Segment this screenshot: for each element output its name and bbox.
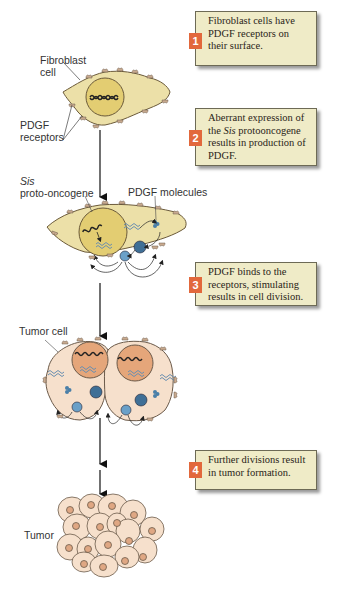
tumor-mass-illustration [57,494,164,577]
dividing-tumor-cells-illustration [43,337,177,425]
step-2-text: Aberrant expression of the Sis protoonco… [208,112,306,161]
step-1-number: 1 [189,33,202,49]
tumor-label: Tumor [24,529,54,541]
step-1-box: 1 Fibroblast cells have PDGF receptors o… [195,11,317,66]
tumor-cell-label: Tumor cell [19,325,68,337]
step-1-text: Fibroblast cells have PDGF receptors on … [208,15,295,51]
step-2-number: 2 [189,130,202,146]
step-2-box: 2 Aberrant expression of the Sis protoon… [195,108,317,166]
step-4-box: 4 Further divisions result in tumor form… [195,450,317,490]
step-3-box: 3 PDGF binds to the receptors, stimulati… [195,262,317,306]
pdgf-receptors-label: PDGFreceptors [20,119,64,143]
step-4-number: 4 [189,462,202,478]
fibroblast-cell-label: Fibroblastcell [40,54,86,78]
fibroblast-expressing-pdgf-illustration [47,196,186,277]
step-3-number: 3 [189,277,202,293]
step-3-text: PDGF binds to the receptors, stimulating… [208,266,303,302]
pdgf-molecules-label: PDGF molecules [128,186,207,198]
step-4-text: Further divisions result in tumor format… [208,454,305,478]
sis-proto-oncogene-label: Sisproto-oncogene [20,175,94,199]
